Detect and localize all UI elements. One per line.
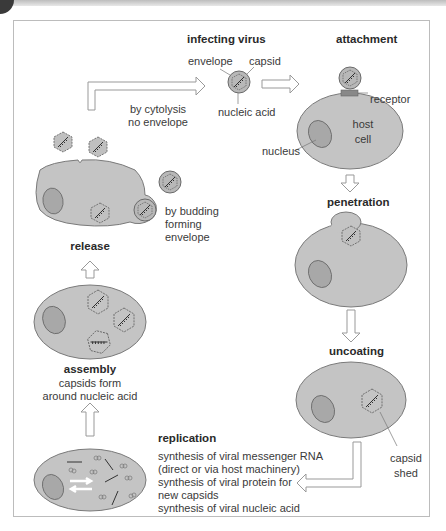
arrow-penetrate-to-uncoat bbox=[342, 310, 360, 342]
arrow-assemble-to-release bbox=[81, 261, 99, 278]
stage-title-release: release bbox=[40, 240, 140, 253]
stage-title-penetration: penetration bbox=[327, 196, 390, 209]
cytolysis-line-2: no envelope bbox=[118, 116, 198, 129]
stage-title-attachment: attachment bbox=[336, 33, 397, 46]
stage-title-infecting-virus: infecting virus bbox=[187, 33, 266, 46]
arrow-replicate-to-assemble bbox=[81, 403, 99, 436]
replication-line-4: new capsids bbox=[158, 489, 219, 502]
label-host: host bbox=[348, 118, 378, 131]
replication-line-2: (direct or via host machinery) bbox=[158, 463, 300, 476]
replication-line-1: synthesis of viral messenger RNA bbox=[158, 450, 323, 463]
replication-line-5: synthesis of viral nucleic acid bbox=[158, 502, 300, 515]
stage-title-assembly: assembly bbox=[40, 363, 140, 376]
label-nucleic-acid: nucleic acid bbox=[218, 106, 275, 119]
label-nucleus: nucleus bbox=[262, 145, 300, 158]
label-capsid-shed-2: shed bbox=[386, 467, 426, 480]
assembly-line-1: capsids form bbox=[30, 377, 150, 390]
stage-title-uncoating: uncoating bbox=[329, 345, 384, 358]
label-receptor: receptor bbox=[370, 93, 410, 106]
assembly-line-2: around nucleic acid bbox=[30, 390, 150, 403]
label-capsid-shed-1: capsid bbox=[386, 452, 426, 465]
stage-title-replication: replication bbox=[158, 432, 216, 445]
label-cell: cell bbox=[348, 133, 378, 146]
arrow-attach-to-penetrate bbox=[341, 175, 359, 192]
label-capsid: capsid bbox=[249, 55, 281, 68]
cytolysis-line-1: by cytolysis bbox=[118, 103, 198, 116]
budding-line-2: forming bbox=[165, 218, 202, 231]
replication-line-3: synthesis of viral protein for bbox=[158, 476, 292, 489]
arrow-infect-to-attach bbox=[262, 75, 299, 93]
label-envelope: envelope bbox=[188, 55, 233, 68]
budding-line-1: by budding bbox=[165, 205, 219, 218]
budding-line-3: envelope bbox=[165, 231, 210, 244]
